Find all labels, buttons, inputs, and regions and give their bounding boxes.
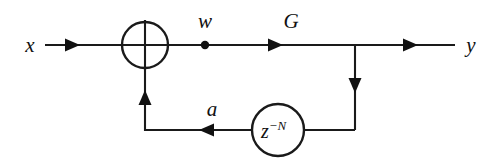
arrowhead-output [403,39,418,52]
summing-junction[interactable] [122,20,168,70]
arrowhead-gain [268,39,283,52]
delay-block-exponent: −N [269,118,288,133]
label-input-x: x [24,33,35,57]
arrowhead-input [65,39,80,52]
block-diagram-canvas: z−N x w G y a [0,0,501,165]
tap-node-w-dot [201,41,209,49]
arrowhead-feedback-left [199,124,214,137]
label-output-y: y [464,33,476,57]
arrowhead-feedback-up [139,90,152,105]
label-feedback-a: a [207,97,218,121]
label-node-w: w [198,9,212,33]
signal-flow-diagram: z−N x w G y a [0,0,501,165]
delay-block-base: z [260,120,269,142]
delay-block[interactable]: z−N [252,104,304,156]
label-gain-g: G [283,9,298,33]
arrowhead-tap-down [349,78,362,93]
